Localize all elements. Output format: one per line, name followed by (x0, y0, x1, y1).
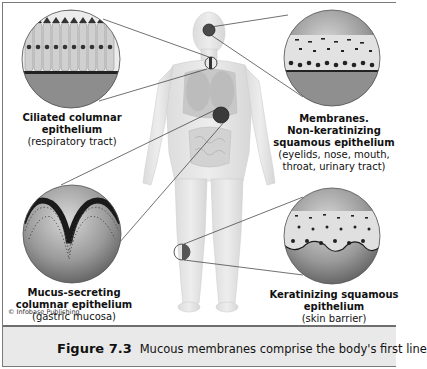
ciliated-detail: (respiratory tract) (11, 136, 133, 148)
caption-area: Figure 7.3Mucous membranes comprise the … (3, 327, 396, 366)
ciliated-epithelium-magnifier (22, 10, 120, 114)
eye-marker (203, 24, 215, 36)
figure-frame: Ciliated columnar epithelium (respirator… (2, 2, 396, 367)
non-keratinizing-detail-2: throat, urinary tract) (269, 161, 399, 173)
gastric-mucosa-magnifier (23, 185, 121, 283)
non-keratinizing-detail-1: (eyelids, nose, mouth, (269, 149, 399, 161)
ciliated-title-1: Ciliated columnar (11, 112, 133, 124)
non-keratinizing-label: Membranes. Non-keratinizing squamous epi… (269, 113, 399, 173)
mucus-secreting-title-1: Mucus-secreting (7, 287, 141, 299)
caption-text: Mucous membranes comprise the body's fir… (140, 342, 427, 356)
ciliated-title-2: epithelium (11, 124, 133, 136)
non-keratinizing-title-1: Membranes. (269, 113, 399, 125)
keratinizing-title-2: epithelium (267, 301, 401, 313)
keratinized-skin-magnifier (284, 188, 380, 284)
keratinizing-label: Keratinizing squamous epithelium (skin b… (267, 289, 401, 325)
copyright-notice: © Infobase Publishing (8, 308, 80, 316)
non-keratinizing-title-3: squamous epithelium (269, 137, 399, 149)
figure-caption: Figure 7.3Mucous membranes comprise the … (57, 341, 427, 356)
squamous-epithelium-magnifier (284, 10, 380, 112)
keratinizing-title-1: Keratinizing squamous (267, 289, 401, 301)
keratinizing-detail: (skin barrier) (267, 313, 401, 325)
non-keratinizing-title-2: Non-keratinizing (269, 125, 399, 137)
ciliated-label: Ciliated columnar epithelium (respirator… (11, 112, 133, 148)
mucus-secreting-label: Mucus-secreting columnar epithelium (gas… (7, 287, 141, 323)
figure-number: Figure 7.3 (57, 341, 132, 356)
illustration-area: Ciliated columnar epithelium (respirator… (3, 3, 396, 325)
